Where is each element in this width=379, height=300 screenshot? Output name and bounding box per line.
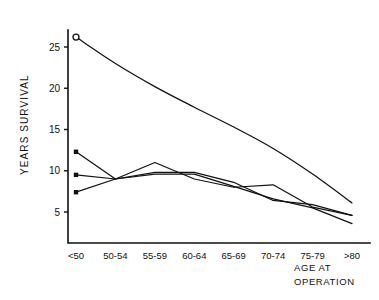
y-tick-label: 5 xyxy=(54,207,60,218)
series-line-observed-series-3 xyxy=(76,174,352,224)
x-tick-label: 70-74 xyxy=(261,250,285,261)
series-line-observed-series-1 xyxy=(76,152,352,216)
x-tick-label: 65-69 xyxy=(222,250,246,261)
y-tick-label: 25 xyxy=(49,42,61,53)
x-tick-labels: <5050-5455-5960-6465-6970-7475-79>80 xyxy=(68,250,360,261)
data-point-marker-square xyxy=(74,190,78,194)
x-tick-label: 50-54 xyxy=(103,250,127,261)
data-point-marker-square xyxy=(74,173,78,177)
chart-figure: 510152025 <5050-5455-5960-6465-6970-7475… xyxy=(0,0,379,300)
x-tick-label: 75-79 xyxy=(300,250,324,261)
data-series-layer xyxy=(76,37,352,223)
y-axis-title: YEARS SURVIVAL xyxy=(19,74,30,175)
x-tick-label: 60-64 xyxy=(182,250,206,261)
data-point-marker-open-circle xyxy=(73,34,79,40)
y-tick-label: 10 xyxy=(49,165,61,176)
data-markers-layer xyxy=(73,34,79,194)
chart-canvas: 510152025 <5050-5455-5960-6465-6970-7475… xyxy=(0,0,379,300)
data-point-marker-square xyxy=(74,150,78,154)
x-axis-title-line1: AGE AT xyxy=(294,262,331,273)
y-tick-label: 15 xyxy=(49,124,61,135)
x-tick-label: 55-59 xyxy=(143,250,167,261)
y-tick-label: 20 xyxy=(49,83,61,94)
x-tick-label: >80 xyxy=(344,250,360,261)
x-axis-title-line2: OPERATION xyxy=(294,276,355,287)
y-tick-labels: 510152025 xyxy=(49,42,61,218)
x-tick-label: <50 xyxy=(68,250,84,261)
